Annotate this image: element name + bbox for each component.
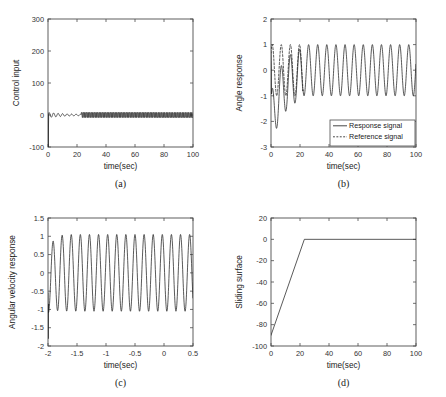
trace-response-signal [271, 45, 416, 129]
chart-a: 020406080100-1000100200300time(sec)Contr… [0, 0, 223, 198]
x-tick-label: -1 [103, 349, 110, 358]
trace-reference-signal [271, 45, 303, 96]
y-tick-label: 0.5 [34, 250, 44, 259]
subplot-c: -2-1.5-1-0.500.5-2-1.5-1-0.500.511.5time… [0, 199, 223, 397]
x-tick-label: 0 [162, 349, 166, 358]
y-tick-label: -0.5 [31, 287, 44, 296]
figure-container: 020406080100-1000100200300time(sec)Contr… [0, 0, 446, 397]
x-tick-label: 60 [354, 150, 362, 159]
x-tick-label: 0 [46, 150, 50, 159]
y-tick-label: 100 [32, 79, 44, 88]
x-tick-label: 0 [269, 150, 273, 159]
y-tick-label: -2 [260, 117, 267, 126]
x-tick-label: 0.5 [188, 349, 198, 358]
y-tick-label: 20 [259, 214, 267, 223]
chart-d: 020406080100-100-80-60-40-20020time(sec)… [223, 199, 446, 397]
x-tick-label: 80 [383, 150, 391, 159]
x-axis-title: time(sec) [104, 162, 138, 171]
x-tick-label: 100 [410, 349, 422, 358]
x-tick-label: 60 [354, 349, 362, 358]
x-axis-title: time(sec) [104, 361, 138, 370]
y-axis-title: Control input [12, 59, 21, 106]
y-tick-label: -1.5 [31, 323, 44, 332]
y-tick-label: 1 [40, 232, 44, 241]
y-tick-label: -1 [260, 92, 267, 101]
x-tick-label: 100 [187, 150, 199, 159]
legend-label: Reference signal [349, 132, 403, 141]
x-tick-label: 20 [296, 349, 304, 358]
y-tick-label: 200 [32, 47, 44, 56]
y-tick-label: -2 [37, 342, 44, 351]
y-axis-title: Angle response [235, 54, 244, 111]
subplot-caption: (c) [115, 377, 126, 389]
y-tick-label: -60 [256, 299, 267, 308]
subplot-caption: (a) [115, 178, 126, 190]
x-tick-label: -1.5 [71, 349, 84, 358]
x-tick-label: 100 [410, 150, 422, 159]
y-tick-label: 2 [263, 15, 267, 24]
plot-frame [48, 19, 193, 147]
y-tick-label: 300 [32, 15, 44, 24]
y-tick-label: 0 [40, 111, 44, 120]
plot-frame [48, 218, 193, 346]
x-tick-label: -0.5 [129, 349, 142, 358]
subplot-a: 020406080100-1000100200300time(sec)Contr… [0, 0, 223, 198]
x-tick-label: 80 [383, 349, 391, 358]
trace-control-input [48, 113, 193, 147]
y-axis-title: Sliding surface [235, 255, 244, 309]
x-axis-title: time(sec) [327, 361, 361, 370]
y-tick-label: 1.5 [34, 214, 44, 223]
plot-frame [271, 218, 416, 346]
x-axis-title: time(sec) [327, 162, 361, 171]
subplot-caption: (d) [338, 377, 350, 389]
x-tick-label: 20 [73, 150, 81, 159]
y-tick-label: -100 [252, 342, 267, 351]
subplot-d: 020406080100-100-80-60-40-20020time(sec)… [223, 199, 446, 397]
x-tick-label: 20 [296, 150, 304, 159]
chart-b: 020406080100-3-2-1012time(sec)Angle resp… [223, 0, 446, 198]
y-tick-label: 0 [263, 235, 267, 244]
x-tick-label: 40 [325, 349, 333, 358]
trace-sliding-surface [271, 239, 416, 335]
subplot-caption: (b) [338, 178, 350, 190]
x-tick-label: 0 [269, 349, 273, 358]
y-tick-label: -100 [29, 143, 44, 152]
y-tick-label: -1 [37, 305, 44, 314]
legend-label: Response signal [349, 121, 403, 130]
x-tick-label: 60 [131, 150, 139, 159]
y-tick-label: 0 [40, 269, 44, 278]
x-tick-label: -2 [45, 349, 52, 358]
subplot-b: 020406080100-3-2-1012time(sec)Angle resp… [223, 0, 446, 198]
x-tick-label: 40 [325, 150, 333, 159]
chart-c: -2-1.5-1-0.500.5-2-1.5-1-0.500.511.5time… [0, 199, 223, 397]
y-tick-label: -3 [260, 143, 267, 152]
y-tick-label: -40 [256, 278, 267, 287]
y-tick-label: 0 [263, 66, 267, 75]
x-tick-label: 80 [160, 150, 168, 159]
legend: Response signalReference signal [330, 120, 415, 146]
trace-angular-velocity-response [48, 234, 193, 338]
y-axis-title: Angular velocity response [8, 235, 17, 329]
y-tick-label: -20 [256, 256, 267, 265]
y-tick-label: 1 [263, 40, 267, 49]
y-tick-label: -80 [256, 320, 267, 329]
x-tick-label: 40 [102, 150, 110, 159]
